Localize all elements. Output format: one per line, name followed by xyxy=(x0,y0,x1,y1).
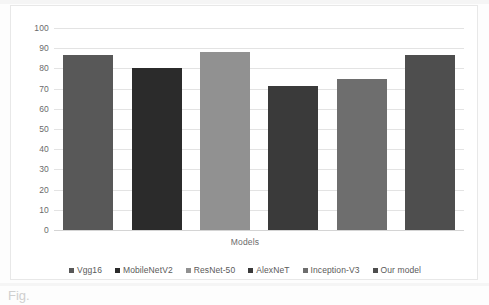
legend-swatch-icon xyxy=(69,268,74,273)
figure-caption-fragment: Fig. xyxy=(8,288,30,303)
legend-item-mobilenetv2[interactable]: MobileNetV2 xyxy=(115,265,173,275)
plot-area xyxy=(54,28,464,230)
bar-vgg16 xyxy=(63,55,113,230)
y-axis-tick-label: 30 xyxy=(23,165,49,174)
bar-mobilenetv2 xyxy=(132,68,182,230)
bar-chart: 1009080706050403020100 Models Vgg16Mobil… xyxy=(10,5,478,280)
legend-swatch-icon xyxy=(373,268,378,273)
y-axis-tick-label: 0 xyxy=(23,226,49,235)
legend-item-inception-v3[interactable]: Inception-V3 xyxy=(303,265,360,275)
scan-smudge xyxy=(0,283,489,286)
y-axis-tick-label: 60 xyxy=(23,105,49,114)
gridline xyxy=(54,230,464,231)
y-axis-tick-label: 10 xyxy=(23,206,49,215)
gridline xyxy=(54,210,464,211)
gridline xyxy=(54,28,464,29)
legend-label: Inception-V3 xyxy=(311,265,360,275)
legend-swatch-icon xyxy=(186,268,191,273)
bar-alexnet xyxy=(268,86,318,230)
y-axis-tick-label: 50 xyxy=(23,125,49,134)
chart-legend: Vgg16MobileNetV2ResNet-50AlexNeTInceptio… xyxy=(11,265,479,275)
legend-swatch-icon xyxy=(248,268,253,273)
bar-our-model xyxy=(405,55,455,230)
x-axis-label: Models xyxy=(11,237,479,247)
bar-inception-v3 xyxy=(337,79,387,231)
y-axis-tick-label: 20 xyxy=(23,185,49,194)
y-axis-tick-label: 100 xyxy=(23,24,49,33)
gridline xyxy=(54,89,464,90)
scan-smudge xyxy=(0,0,489,4)
legend-item-our-model[interactable]: Our model xyxy=(373,265,422,275)
legend-label: Our model xyxy=(381,265,422,275)
legend-swatch-icon xyxy=(303,268,308,273)
legend-label: AlexNeT xyxy=(256,265,289,275)
gridline xyxy=(54,190,464,191)
gridline xyxy=(54,48,464,49)
y-axis-tick-label: 40 xyxy=(23,145,49,154)
y-axis: 1009080706050403020100 xyxy=(21,28,49,230)
y-axis-tick-label: 70 xyxy=(23,84,49,93)
scanned-page: 1009080706050403020100 Models Vgg16Mobil… xyxy=(0,0,489,305)
y-axis-tick-label: 80 xyxy=(23,64,49,73)
bar-resnet-50 xyxy=(200,52,250,230)
legend-label: Vgg16 xyxy=(77,265,102,275)
legend-item-alexnet[interactable]: AlexNeT xyxy=(248,265,289,275)
y-axis-tick-label: 90 xyxy=(23,44,49,53)
gridline xyxy=(54,169,464,170)
gridline xyxy=(54,129,464,130)
gridline xyxy=(54,68,464,69)
legend-swatch-icon xyxy=(115,268,120,273)
legend-label: ResNet-50 xyxy=(194,265,236,275)
legend-label: MobileNetV2 xyxy=(123,265,173,275)
gridline xyxy=(54,149,464,150)
legend-item-resnet-50[interactable]: ResNet-50 xyxy=(186,265,236,275)
legend-item-vgg16[interactable]: Vgg16 xyxy=(69,265,102,275)
gridline xyxy=(54,109,464,110)
